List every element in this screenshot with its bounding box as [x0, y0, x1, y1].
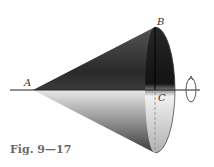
label-a: A — [24, 77, 31, 88]
cone-figure: A B C Fig. 9—17 — [0, 0, 214, 167]
figure-caption: Fig. 9—17 — [10, 143, 71, 156]
label-b: B — [157, 16, 164, 27]
label-c: C — [158, 92, 166, 103]
cone-diagram — [0, 0, 214, 167]
